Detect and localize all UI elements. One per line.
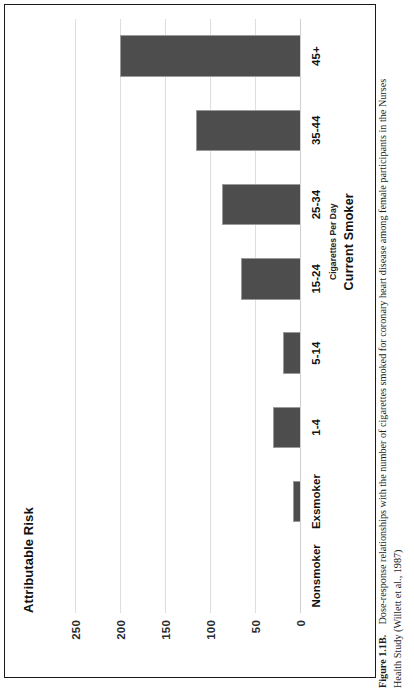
gridline [120, 19, 121, 613]
gridline [255, 19, 256, 613]
gridline [210, 19, 211, 613]
chart-canvas: Attributable Risk 050100150200250 Nonsmo… [7, 3, 375, 671]
x-axis-group-label: Current Smoker [342, 193, 356, 290]
figure-number: Figure 1.1B. [377, 625, 388, 688]
x-axis-category-label: Nonsmoker [310, 544, 322, 607]
bar [222, 184, 301, 226]
caption-line-1: Figure 1.1B. Dose-response relationships… [376, 0, 391, 688]
x-axis-category-label: Exsmoker [310, 474, 322, 529]
y-axis-tick-label: 200 [115, 620, 127, 640]
x-axis-category-label: 45+ [310, 46, 322, 66]
rotated-chart-container: Attributable Risk 050100150200250 Nonsmo… [7, 3, 375, 671]
axis-baseline [300, 19, 301, 613]
y-axis-tick-label: 0 [295, 620, 307, 627]
chart-title: Attributable Risk [21, 507, 36, 613]
bar [273, 407, 301, 449]
bar [120, 35, 301, 77]
y-axis-tick-label: 250 [70, 620, 82, 640]
x-axis-sublabel: Cigarettes Per Day [328, 204, 338, 280]
y-axis-tick-label: 50 [250, 620, 262, 633]
figure-caption: Figure 1.1B. Dose-response relationships… [376, 0, 414, 688]
bar [283, 332, 301, 374]
x-axis-category-label: 15-24 [310, 264, 322, 293]
x-axis-category-label: 25-34 [310, 190, 322, 219]
bar [196, 110, 302, 152]
figure-frame: Attributable Risk 050100150200250 Nonsmo… [4, 4, 376, 678]
x-axis-category-label: 35-44 [310, 116, 322, 145]
gridline [165, 19, 166, 613]
caption-line-2: Health Study (Willett et al., 1987) [391, 0, 406, 688]
plot-area: 050100150200250 NonsmokerExsmoker1-45-14… [53, 19, 301, 613]
x-axis-category-label: 5-14 [310, 342, 322, 365]
figure-caption-container: Figure 1.1B. Dose-response relationships… [376, 0, 414, 688]
bar [241, 258, 301, 300]
y-axis-tick-label: 100 [205, 620, 217, 640]
gridline [75, 19, 76, 613]
x-axis-category-label: 1-4 [310, 419, 322, 436]
y-axis-tick-label: 150 [160, 620, 172, 640]
caption-text-1: Dose-response relationships with the num… [377, 79, 388, 625]
